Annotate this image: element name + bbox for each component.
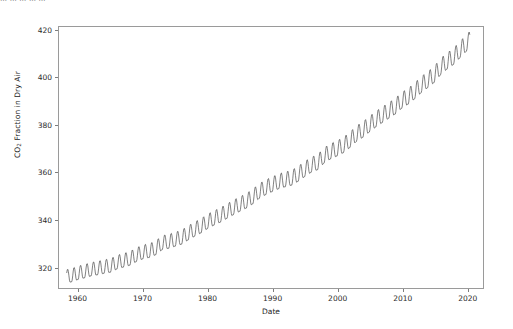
y-tick-label: 380 <box>26 120 52 129</box>
x-tick-mark <box>208 289 209 292</box>
x-tick-label: 1990 <box>253 294 293 303</box>
x-tick-mark <box>143 289 144 292</box>
co2-series-line <box>59 27 483 288</box>
x-tick-label: 1960 <box>58 294 98 303</box>
x-tick-mark <box>338 289 339 292</box>
x-tick-label: 2010 <box>383 294 423 303</box>
x-tick-label: 2020 <box>448 294 488 303</box>
x-tick-label: 2000 <box>318 294 358 303</box>
x-tick-mark <box>273 289 274 292</box>
x-axis-label: Date <box>262 307 280 316</box>
plot-area <box>58 26 484 289</box>
x-tick-mark <box>468 289 469 292</box>
y-tick-label: 420 <box>26 25 52 34</box>
y-axis-label: CO2 Fraction in Dry Air <box>13 71 22 158</box>
x-tick-mark <box>78 289 79 292</box>
x-tick-label: 1980 <box>188 294 228 303</box>
chart-figure: CO2 Fraction in Dry Air Date 32034036038… <box>0 0 513 329</box>
y-tick-label: 320 <box>26 263 52 272</box>
y-tick-label: 340 <box>26 215 52 224</box>
y-tick-label: 360 <box>26 168 52 177</box>
x-tick-mark <box>403 289 404 292</box>
y-tick-label: 400 <box>26 73 52 82</box>
co2-series-path <box>67 32 470 282</box>
x-tick-label: 1970 <box>123 294 163 303</box>
